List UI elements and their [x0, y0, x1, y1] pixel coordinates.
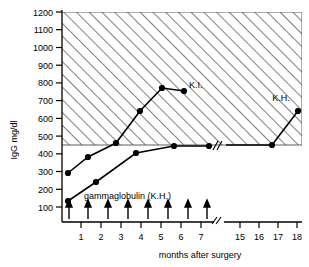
x-axis-break-icon [212, 217, 221, 224]
gammaglobulin-arrow-icon [105, 200, 111, 219]
y-tick-label: 700 [38, 96, 53, 106]
data-point [113, 140, 119, 146]
y-axis-ticks [56, 12, 62, 207]
y-tick-label: 100 [38, 203, 53, 213]
x-tick-label: 6 [178, 232, 183, 242]
x-tick-label: 15 [235, 232, 245, 242]
data-point [171, 143, 177, 149]
y-tick-label: 200 [38, 185, 53, 195]
x-tick-label: 16 [254, 232, 264, 242]
data-point [65, 198, 71, 204]
series-label-kh: K.H. [272, 93, 290, 103]
data-point [181, 88, 187, 94]
x-tick-label: 2 [98, 232, 103, 242]
x-tick-label: 5 [158, 232, 163, 242]
y-axis-tick-labels: 1200 1100 1000 900 800 700 600 500 400 3… [33, 8, 53, 213]
x-axis-tick-labels: 1 2 3 4 5 6 7 15 16 17 18 [78, 232, 302, 242]
data-point [133, 150, 139, 156]
y-tick-label: 300 [38, 167, 53, 177]
x-tick-label: 4 [138, 232, 143, 242]
y-tick-label: 500 [38, 132, 53, 142]
igg-line-chart: 1200 1100 1000 900 800 700 600 500 400 3… [0, 0, 309, 267]
data-point [85, 154, 91, 160]
x-tick-label: 7 [198, 232, 203, 242]
data-point [93, 179, 99, 185]
x-tick-label: 17 [273, 232, 283, 242]
data-point [295, 108, 301, 114]
x-axis-ticks [81, 222, 297, 228]
x-axis-title: months after surgery [159, 250, 242, 260]
chart-figure: 1200 1100 1000 900 800 700 600 500 400 3… [0, 0, 309, 267]
y-tick-label: 900 [38, 61, 53, 71]
gammaglobulin-arrow-icon [204, 200, 210, 219]
x-tick-label: 18 [292, 232, 302, 242]
data-point [137, 108, 143, 114]
y-tick-label: 1200 [33, 8, 53, 18]
normal-range-band [62, 12, 302, 145]
y-axis-title: IgG mg/dl [9, 120, 19, 159]
gammaglobulin-annotation: gammaglobulin (K.H.) [84, 191, 171, 201]
gammaglobulin-arrow-icon [85, 200, 91, 219]
gammaglobulin-arrow-icon [145, 200, 151, 219]
y-tick-label: 800 [38, 78, 53, 88]
data-point [269, 142, 275, 148]
treatment-arrows [66, 200, 210, 219]
y-tick-label: 1100 [34, 25, 53, 35]
gammaglobulin-arrow-icon [125, 200, 131, 219]
data-point [65, 170, 71, 176]
series-label-ki: K.I. [189, 80, 203, 90]
data-point [206, 143, 212, 149]
x-tick-label: 3 [118, 232, 123, 242]
y-tick-label: 600 [38, 114, 53, 124]
x-tick-label: 1 [78, 232, 83, 242]
gammaglobulin-arrow-icon [165, 200, 171, 219]
data-point [159, 85, 165, 91]
y-tick-label: 1000 [33, 43, 53, 53]
y-tick-label: 400 [38, 149, 53, 159]
gammaglobulin-arrow-icon [185, 200, 191, 219]
